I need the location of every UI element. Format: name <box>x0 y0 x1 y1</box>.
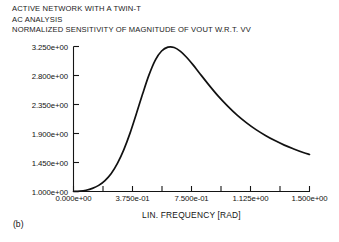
x-axis-tick-label: 1.500e+00 <box>291 194 327 203</box>
x-axis-tick-label: 1.125e+00 <box>232 194 268 203</box>
y-axis-tick-label: 3.250e+00 <box>2 42 68 51</box>
x-axis-tick-label: 3.750e-01 <box>115 194 149 203</box>
x-axis-title: LIN. FREQUENCY [RAD] <box>73 210 310 220</box>
x-axis-ticks <box>74 186 310 192</box>
data-curve <box>74 47 310 192</box>
y-axis-tick-label: 2.350e+00 <box>2 100 68 109</box>
x-axis-tick-label: 0.000e+00 <box>55 194 91 203</box>
y-axis-tick-label: 2.800e+00 <box>2 71 68 80</box>
plot-canvas <box>0 0 339 242</box>
y-axis-tick-label: 1.450e+00 <box>2 158 68 167</box>
y-axis-tick-label: 1.900e+00 <box>2 129 68 138</box>
plot-area <box>0 0 339 242</box>
axes <box>74 47 311 192</box>
figure-screenshot: ACTIVE NETWORK WITH A TWIN-T AC ANALYSIS… <box>0 0 339 242</box>
figure-caption: (b) <box>13 219 24 229</box>
y-axis-ticks <box>74 47 80 192</box>
x-axis-tick-label: 7.500e-01 <box>174 194 208 203</box>
